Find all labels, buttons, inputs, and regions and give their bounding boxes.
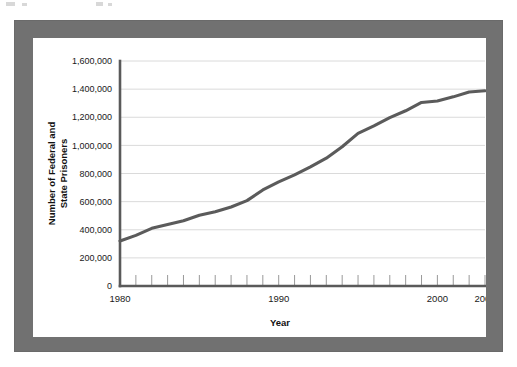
- prisoner-population-line-chart: 0200,000400,000600,000800,0001,000,0001,…: [33, 38, 486, 337]
- y-axis-tick-labels: 0200,000400,000600,000800,0001,000,0001,…: [72, 56, 112, 291]
- x-axis-title: Year: [270, 317, 290, 328]
- chart-canvas: 0200,000400,000600,000800,0001,000,0001,…: [33, 38, 486, 337]
- x-tick-label: 1990: [268, 293, 289, 304]
- y-tick-label: 1,000,000: [72, 141, 112, 151]
- x-tick-label: 1980: [109, 293, 130, 304]
- x-tick-label: 2003: [474, 293, 486, 304]
- chart-frame: 0200,000400,000600,000800,0001,000,0001,…: [14, 20, 503, 352]
- y-axis-title-line-1: Number of Federal and: [46, 122, 57, 226]
- gridlines: [120, 61, 485, 258]
- y-axis-title-line-2: State Prisoners: [58, 139, 69, 209]
- y-tick-label: 1,400,000: [72, 84, 112, 94]
- y-tick-label: 200,000: [79, 253, 112, 263]
- x-axis-tickmarks: [120, 275, 485, 285]
- scan-artifacts: [0, 0, 517, 14]
- y-tick-label: 400,000: [79, 225, 112, 235]
- y-tick-label: 600,000: [79, 197, 112, 207]
- chart-svg: 0200,000400,000600,000800,0001,000,0001,…: [33, 38, 486, 337]
- x-axis-tick-labels: 1980199020002003: [109, 293, 486, 304]
- y-tick-label: 1,600,000: [72, 56, 112, 66]
- y-tick-label: 1,200,000: [72, 112, 112, 122]
- y-tick-label: 0: [107, 281, 112, 291]
- data-series-line: [120, 91, 485, 241]
- y-tick-label: 800,000: [79, 169, 112, 179]
- x-tick-label: 2000: [427, 293, 448, 304]
